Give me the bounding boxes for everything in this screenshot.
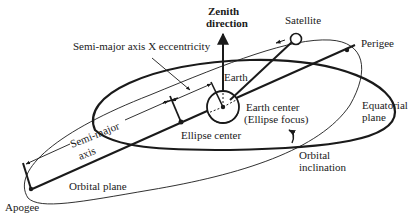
zenith-label-line2: direction [206, 17, 248, 29]
orbit-diagram-svg: Zenith direction Satellite Perigee Semi-… [0, 0, 415, 220]
orbital-plane-label: Orbital plane [69, 180, 127, 192]
orbital-inclination-label-line1: Orbital [299, 149, 330, 161]
perigee-point [345, 48, 349, 52]
earth-center-label-line1: Earth center [246, 101, 300, 113]
orbital-inclination-label-line2: inclination [299, 161, 347, 173]
orbit-direction-arrow [276, 40, 285, 43]
zenith-label-line1: Zenith [208, 5, 239, 17]
apogee-label: Apogee [5, 201, 39, 213]
semi-major-label-line1: Semi-major [68, 119, 121, 150]
earth-label: Earth [224, 71, 248, 83]
eccentricity-dimension-line [172, 84, 211, 101]
inclination-arc [289, 130, 293, 143]
earth-center-label-line2: (Ellipse focus) [244, 113, 309, 126]
ellipse-center-label: Ellipse center [181, 129, 242, 141]
equatorial-plane-label-line2: plane [362, 111, 386, 123]
satellite-icon [291, 34, 302, 45]
semi-major-dimension-right [125, 101, 168, 120]
satellite-label: Satellite [285, 14, 321, 26]
orbit-diagram: Zenith direction Satellite Perigee Semi-… [0, 0, 415, 220]
eccentricity-leader [152, 58, 190, 90]
semi-major-dimension-left [26, 144, 70, 164]
equatorial-plane-label-line1: Equatorial [362, 99, 408, 111]
semi-major-ecc-label: Semi-major axis X eccentricity [73, 40, 211, 52]
perigee-label: Perigee [361, 37, 394, 49]
